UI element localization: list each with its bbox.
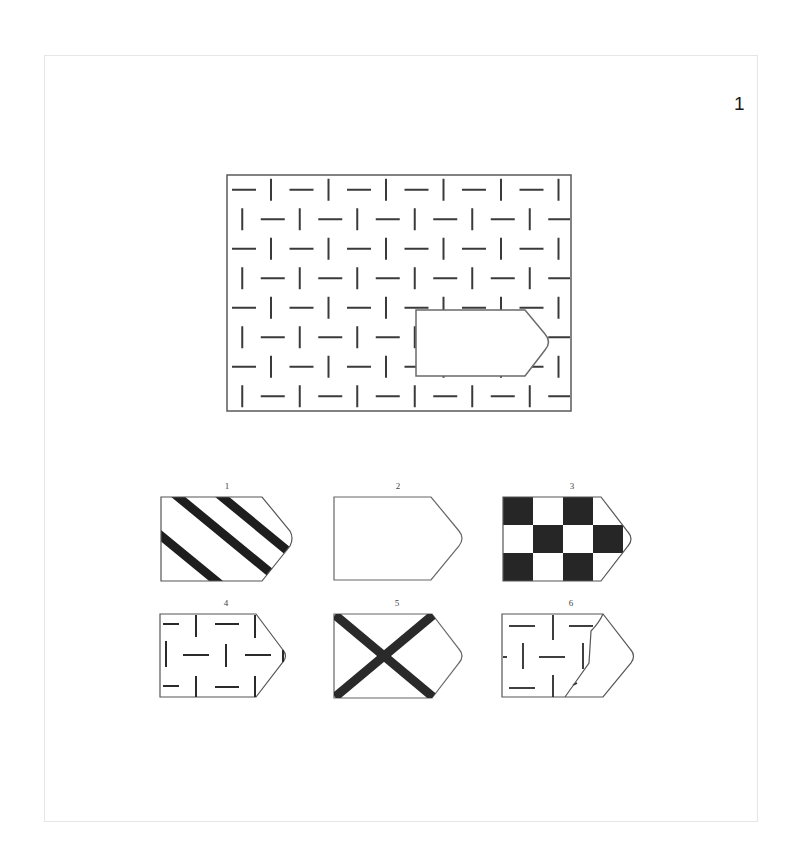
option-5-label: 5 xyxy=(387,598,407,608)
option-2-label: 2 xyxy=(388,481,408,491)
option-1-label: 1 xyxy=(217,481,237,491)
option-4-label: 4 xyxy=(216,598,236,608)
option-3-label: 3 xyxy=(562,481,582,491)
missing-piece-blank xyxy=(416,310,549,376)
option-1-diagonal-stripes[interactable] xyxy=(160,496,296,583)
main-pattern-figure xyxy=(226,174,572,412)
page-number: 1 xyxy=(734,93,745,115)
option-3-checkerboard[interactable] xyxy=(502,496,638,583)
page-frame xyxy=(44,55,758,822)
option-5-x-cross[interactable] xyxy=(333,613,469,700)
option-2-blank[interactable] xyxy=(333,496,469,583)
option-4-dash-grid[interactable] xyxy=(159,613,295,700)
option-6-label: 6 xyxy=(561,598,581,608)
option-6-partial-dash-grid[interactable] xyxy=(501,613,639,700)
